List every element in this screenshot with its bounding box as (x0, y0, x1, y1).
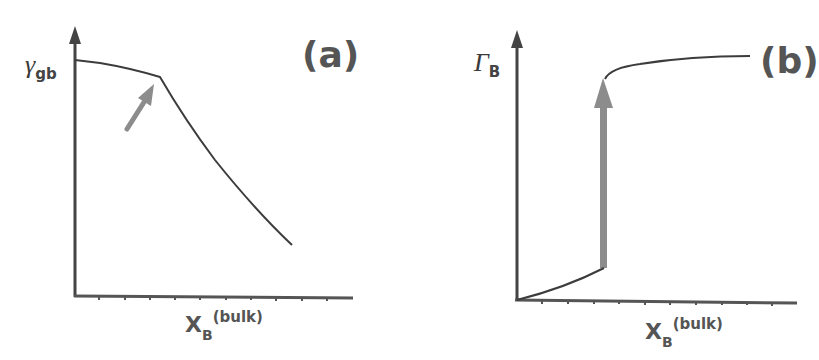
y-axis-arrowhead-b (511, 30, 523, 48)
y-label-symbol: Γ (474, 48, 489, 77)
curve-gamma-b-lower (517, 268, 604, 300)
y-label-symbol: γ (25, 50, 35, 79)
transition-arrow-shaft (600, 100, 607, 268)
x-label-symbol: X (185, 312, 202, 337)
kink-arrow-icon (138, 84, 154, 106)
x-label-superscript: (bulk) (673, 315, 723, 333)
transition-arrow-icon (594, 78, 613, 108)
x-axis-label-b: XB(bulk) (645, 315, 723, 350)
x-label-superscript: (bulk) (213, 308, 263, 326)
curve-gamma-gb (75, 60, 292, 245)
y-axis-label-b: ΓB (474, 48, 500, 81)
panel-tag-b: (b) (760, 40, 819, 81)
y-axis-label-a: γgb (25, 50, 57, 83)
x-label-subscript: B (202, 327, 213, 343)
y-label-subscript: B (489, 63, 500, 81)
x-label-symbol: X (645, 319, 662, 344)
x-axis-label-a: XB(bulk) (185, 308, 263, 343)
curve-gamma-b-upper (605, 56, 750, 79)
x-axis-a (74, 296, 353, 298)
kink-arrow-shaft (127, 99, 146, 129)
y-label-subscript: gb (35, 65, 56, 83)
panel-b (511, 30, 797, 306)
x-axis-b (515, 300, 797, 303)
panel-tag-a: (a) (302, 34, 359, 75)
y-axis-arrowhead-a (69, 26, 81, 44)
x-label-subscript: B (662, 334, 673, 350)
